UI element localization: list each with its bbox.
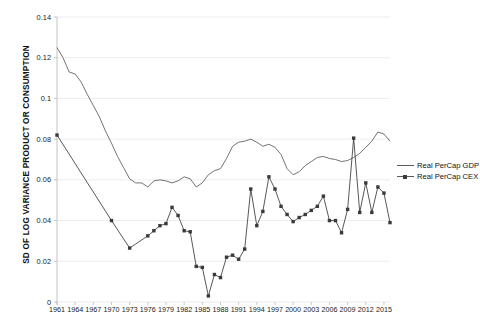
y-tick-1: 0.02 (21, 257, 51, 266)
legend: Real PerCap GDP Real PerCap CEX (397, 160, 479, 182)
legend-label-gdp: Real PerCap GDP (417, 160, 479, 171)
gridlines (57, 17, 390, 302)
y-tick-2: 0.04 (21, 216, 51, 225)
y-tick-4: 0.08 (21, 135, 51, 144)
legend-line-icon (397, 161, 414, 170)
y-tick-3: 0.06 (21, 175, 51, 184)
y-tick-7: 0.14 (21, 13, 51, 22)
y-tick-6: 0.12 (21, 53, 51, 62)
legend-label-cex: Real PerCap CEX (417, 171, 478, 182)
axis-lines (54, 17, 57, 305)
x-tick-2015: 2015 (371, 305, 397, 314)
series-real-percap-cex (55, 133, 391, 297)
legend-item-gdp[interactable]: Real PerCap GDP (397, 160, 479, 171)
y-tick-5: 0.1 (21, 94, 51, 103)
legend-item-cex[interactable]: Real PerCap CEX (397, 171, 479, 182)
series-real-percap-gdp (57, 48, 390, 187)
chart-container: SD OF LOG VARIANCE PRODUCT OR CONSUMPTIO… (0, 0, 480, 329)
legend-line-marker-icon (397, 172, 414, 181)
